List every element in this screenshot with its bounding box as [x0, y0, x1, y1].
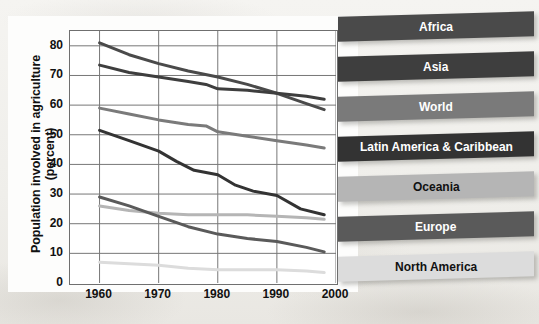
y-axis-tick-label: 70 [37, 67, 63, 81]
y-axis-tick-label: 40 [37, 156, 63, 170]
legend-item-label: Africa [419, 20, 453, 34]
legend-item-europe[interactable]: Europe [338, 211, 534, 241]
y-axis-tick-label: 0 [37, 275, 63, 289]
line-chart: Population involved in agriculture (perc… [0, 0, 539, 324]
series-line [100, 197, 325, 252]
y-axis-tick-label: 20 [37, 216, 63, 230]
series-line [100, 262, 325, 272]
plot-area [69, 30, 338, 285]
legend-row: Oceania [352, 174, 539, 214]
legend-item-label: Oceania [413, 180, 460, 194]
series-lines [70, 31, 336, 283]
legend-row: Latin America & Caribbean [352, 134, 539, 174]
chart-legend: AfricaAsiaWorldLatin America & Caribbean… [352, 14, 539, 296]
y-axis-tick-label: 50 [37, 127, 63, 141]
legend-item-asia[interactable]: Asia [338, 51, 534, 81]
x-axis-tick-label: 2000 [315, 287, 355, 301]
legend-item-africa[interactable]: Africa [338, 11, 534, 41]
legend-item-label: Europe [415, 220, 456, 234]
x-axis-tick-label: 1980 [197, 287, 237, 301]
y-axis-tick-label: 10 [37, 245, 63, 259]
legend-row: World [352, 94, 539, 134]
x-axis-tick-label: 1970 [138, 287, 178, 301]
x-axis-tick-label: 1990 [256, 287, 296, 301]
legend-item-label: World [419, 100, 453, 114]
y-axis-tick-label: 60 [37, 97, 63, 111]
y-axis-tick-label: 80 [37, 38, 63, 52]
legend-row: Africa [352, 14, 539, 54]
legend-item-north-america[interactable]: North America [338, 251, 534, 281]
x-axis-tick-label: 1960 [79, 287, 119, 301]
series-line [100, 65, 325, 99]
legend-row: Asia [352, 54, 539, 94]
legend-row: North America [352, 254, 539, 294]
legend-item-latin-america-caribbean[interactable]: Latin America & Caribbean [338, 131, 534, 161]
legend-item-world[interactable]: World [338, 91, 534, 121]
legend-item-label: Latin America & Caribbean [360, 140, 513, 154]
legend-item-label: Asia [423, 60, 448, 74]
legend-item-oceania[interactable]: Oceania [338, 171, 534, 201]
legend-item-label: North America [395, 260, 477, 274]
y-axis-tick-label: 30 [37, 186, 63, 200]
series-line [100, 43, 325, 110]
legend-row: Europe [352, 214, 539, 254]
